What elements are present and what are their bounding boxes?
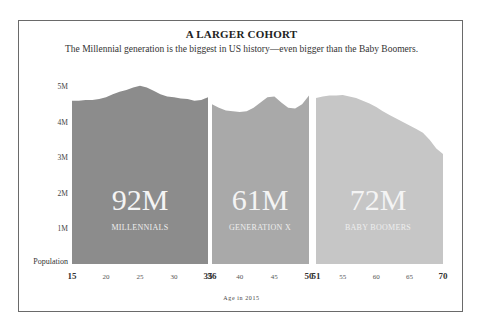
x-tick-40: 40 xyxy=(236,273,243,281)
boomers-total: 72M xyxy=(350,183,407,217)
x-tick-15: 15 xyxy=(68,271,77,281)
x-tick-20: 20 xyxy=(103,273,110,281)
x-tick-45: 45 xyxy=(271,273,278,281)
x-tick-30: 30 xyxy=(171,273,178,281)
area-millennials xyxy=(72,86,208,264)
x-tick-70: 70 xyxy=(439,271,448,281)
area-baby-boomers xyxy=(316,95,443,264)
x-tick-55: 55 xyxy=(339,273,346,281)
boomers-label: BABY BOOMERS xyxy=(345,223,411,232)
x-tick-36: 36 xyxy=(208,271,217,281)
genx-total: 61M xyxy=(232,183,289,217)
area-generation-x xyxy=(212,95,309,264)
millennials-total: 92M xyxy=(112,183,169,217)
x-axis-label: Age in 2015 xyxy=(0,295,483,301)
x-tick-25: 25 xyxy=(137,273,144,281)
genx-label: GENERATION X xyxy=(229,223,291,232)
x-tick-60: 60 xyxy=(373,273,380,281)
x-tick-51: 51 xyxy=(312,271,321,281)
millennials-label: MILLENNIALS xyxy=(111,223,168,232)
x-tick-65: 65 xyxy=(406,273,413,281)
